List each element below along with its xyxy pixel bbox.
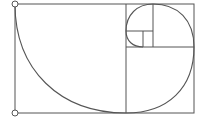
subdivision-lines [126, 4, 194, 113]
endpoint-bottom-left [12, 110, 18, 116]
endpoint-top-left [12, 1, 18, 7]
golden-spiral-diagram [0, 0, 205, 123]
outer-rectangle [15, 4, 194, 113]
spiral-curve [15, 4, 194, 113]
